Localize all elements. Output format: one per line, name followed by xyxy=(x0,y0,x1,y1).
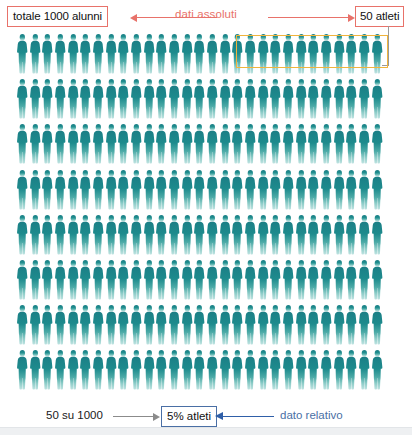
pictogram-figure xyxy=(41,123,54,164)
pictogram-figure xyxy=(345,169,358,210)
pictogram-figure xyxy=(54,259,67,300)
pictogram-figure xyxy=(130,78,143,119)
pictogram-figure xyxy=(79,78,92,119)
pictogram-row xyxy=(16,169,396,210)
right-connector-line xyxy=(268,17,352,18)
pictogram-figure xyxy=(143,78,156,119)
pictogram-figure xyxy=(320,214,333,255)
pictogram-figure xyxy=(231,123,244,164)
pictogram-figure xyxy=(181,123,194,164)
pictogram-figure xyxy=(29,349,42,390)
pictogram-figure xyxy=(219,78,232,119)
pictogram-figure xyxy=(54,214,67,255)
pictogram-figure xyxy=(371,78,384,119)
pictogram-figure-athlete xyxy=(295,33,308,74)
absolute-data-row: totale 1000 alunni dati assoluti 50 atle… xyxy=(0,5,412,29)
pictogram-figure xyxy=(257,214,270,255)
pictogram-figure xyxy=(168,33,181,74)
arrow-right-icon xyxy=(153,413,160,421)
pictogram-figure xyxy=(67,259,80,300)
pictogram-figure xyxy=(206,169,219,210)
pictogram-figure xyxy=(282,349,295,390)
percent-result-box: 5% atleti xyxy=(161,406,217,427)
pictogram-infographic: totale 1000 alunni dati assoluti 50 atle… xyxy=(0,0,412,435)
pictogram-row xyxy=(16,123,396,164)
pictogram-figure-athlete xyxy=(269,33,282,74)
pictogram-figure xyxy=(155,349,168,390)
pictogram-figure xyxy=(29,33,42,74)
pictogram-figure-athlete xyxy=(257,33,270,74)
pictogram-figure xyxy=(143,169,156,210)
pictogram-figure xyxy=(105,259,118,300)
pictogram-figure xyxy=(117,214,130,255)
pictogram-figure xyxy=(41,304,54,345)
pictogram-figure xyxy=(92,304,105,345)
pictogram-figure xyxy=(307,349,320,390)
pictogram-figure xyxy=(295,349,308,390)
pictogram-figure xyxy=(193,78,206,119)
pictogram-figure-athlete xyxy=(358,33,371,74)
pictogram-figure xyxy=(16,123,29,164)
pictogram-figure xyxy=(282,123,295,164)
pictogram-figure xyxy=(358,169,371,210)
pictogram-figure xyxy=(231,349,244,390)
pictogram-figure xyxy=(130,123,143,164)
pictogram-figure xyxy=(16,169,29,210)
pictogram-row xyxy=(16,214,396,255)
pictogram-figure xyxy=(257,304,270,345)
pictogram-figure xyxy=(79,123,92,164)
pictogram-figure xyxy=(105,304,118,345)
pictogram-figure xyxy=(117,304,130,345)
pictogram-figure xyxy=(206,123,219,164)
pictogram-figure xyxy=(371,169,384,210)
pictogram-figure xyxy=(307,259,320,300)
pictogram-figure xyxy=(181,169,194,210)
pictogram-figure xyxy=(130,349,143,390)
pictogram-figure xyxy=(333,349,346,390)
pictogram-figure xyxy=(345,349,358,390)
pictogram-figure-athlete xyxy=(345,33,358,74)
pictogram-figure xyxy=(143,304,156,345)
pictogram-figure xyxy=(358,259,371,300)
pictogram-figure xyxy=(29,123,42,164)
pictogram-figure xyxy=(41,33,54,74)
pictogram-figure xyxy=(54,169,67,210)
pictogram-figure xyxy=(193,33,206,74)
pictogram-figure xyxy=(181,33,194,74)
pictogram-figure xyxy=(105,33,118,74)
pictogram-figure xyxy=(333,123,346,164)
pictogram-figure xyxy=(117,33,130,74)
pictogram-row xyxy=(16,349,396,390)
pictogram-figure xyxy=(345,78,358,119)
pictogram-grid xyxy=(16,33,396,393)
pictogram-figure xyxy=(257,123,270,164)
pictogram-figure xyxy=(371,259,384,300)
pictogram-figure xyxy=(117,259,130,300)
pictogram-figure xyxy=(206,33,219,74)
pictogram-figure xyxy=(231,214,244,255)
relative-data-label: dato relativo xyxy=(280,406,343,425)
pictogram-figure xyxy=(320,259,333,300)
pictogram-figure xyxy=(92,78,105,119)
pictogram-figure xyxy=(244,214,257,255)
pictogram-figure-athlete xyxy=(371,33,384,74)
pictogram-figure xyxy=(168,123,181,164)
pictogram-figure xyxy=(295,123,308,164)
pictogram-figure xyxy=(244,78,257,119)
pictogram-figure xyxy=(79,304,92,345)
pictogram-figure xyxy=(320,304,333,345)
pictogram-figure xyxy=(244,123,257,164)
pictogram-figure xyxy=(320,78,333,119)
pictogram-figure xyxy=(41,214,54,255)
arrow-right-icon xyxy=(348,14,355,22)
pictogram-figure xyxy=(193,259,206,300)
pictogram-figure xyxy=(193,123,206,164)
pictogram-figure xyxy=(130,33,143,74)
pictogram-figure xyxy=(358,214,371,255)
pictogram-figure xyxy=(244,33,257,74)
pictogram-figure xyxy=(358,304,371,345)
pictogram-figure xyxy=(269,349,282,390)
pictogram-row xyxy=(16,259,396,300)
pictogram-figure xyxy=(295,259,308,300)
pictogram-figure xyxy=(231,33,244,74)
